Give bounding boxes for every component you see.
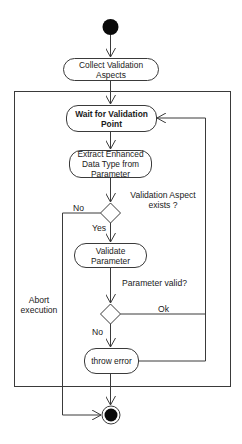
question-line-2: exists ? bbox=[128, 200, 198, 210]
label-abort-execution: Abort execution bbox=[16, 295, 62, 315]
label-no-2: No bbox=[92, 327, 103, 337]
decision-aspect-exists bbox=[101, 203, 121, 223]
abort-line-1: Abort bbox=[16, 295, 62, 305]
label-no-1: No bbox=[73, 203, 84, 213]
label-ok: Ok bbox=[158, 304, 169, 314]
decision-param-valid bbox=[101, 304, 121, 324]
label-yes: Yes bbox=[92, 223, 106, 233]
question-line-1: Validation Aspect bbox=[128, 190, 198, 200]
action-throw-error: throw error bbox=[84, 348, 139, 374]
abort-line-2: execution bbox=[16, 305, 62, 315]
end-node-inner bbox=[105, 409, 118, 422]
loop-frame bbox=[15, 92, 231, 387]
label-validation-aspect-exists: Validation Aspect exists ? bbox=[128, 190, 198, 210]
start-node bbox=[103, 19, 119, 35]
label-parameter-valid: Parameter valid? bbox=[122, 278, 187, 288]
flow-loop-back-to-wait bbox=[157, 118, 206, 361]
action-collect-validation-aspects: Collect Validation Aspects bbox=[63, 58, 159, 81]
action-extract-data-type: Extract Enhanced Data Type from Paramete… bbox=[69, 150, 152, 178]
action-wait-for-validation-point: Wait for Validation Point bbox=[66, 105, 157, 132]
action-validate-parameter: Validate Parameter bbox=[74, 243, 147, 268]
